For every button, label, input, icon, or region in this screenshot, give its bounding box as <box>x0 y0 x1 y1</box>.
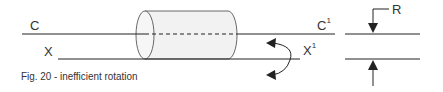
label-c-left: C <box>30 19 39 32</box>
r-gauge <box>345 9 420 86</box>
label-r: R <box>392 3 401 16</box>
label-c-right-text: C <box>317 18 326 33</box>
label-x-right-sup: 1 <box>312 41 316 50</box>
label-c-right-sup: 1 <box>326 16 330 25</box>
arrow-up-icon <box>368 60 378 70</box>
figure-caption: Fig. 20 - inefficient rotation <box>21 70 137 82</box>
label-x-left: X <box>44 45 53 58</box>
arrow-down-icon <box>368 23 378 33</box>
label-x-right-text: X <box>303 43 312 58</box>
label-x-right: X1 <box>303 44 316 57</box>
label-c-right: C1 <box>317 19 331 32</box>
cylinder <box>136 11 237 59</box>
